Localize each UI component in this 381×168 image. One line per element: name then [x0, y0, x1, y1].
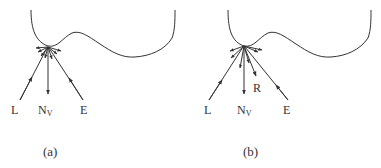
label-N-subscript: V: [47, 109, 53, 118]
caption-b: (b): [243, 145, 258, 158]
panel-b: [209, 10, 371, 100]
label-L-a: L: [11, 104, 18, 116]
label-R-b: R: [253, 82, 261, 94]
label-Nv-b: NV: [237, 104, 251, 118]
label-E-a: E: [80, 104, 87, 116]
label-L-b: L: [204, 104, 211, 116]
panel-a: [20, 10, 175, 100]
caption-a: (a): [43, 145, 57, 158]
surface-curve-b: [228, 10, 371, 57]
label-N-text: N: [38, 103, 47, 117]
diagram-canvas: [0, 0, 381, 168]
label-N-text: N: [237, 103, 246, 117]
label-Nv-a: NV: [38, 104, 52, 118]
label-E-b: E: [283, 104, 290, 116]
label-N-subscript: V: [246, 109, 252, 118]
